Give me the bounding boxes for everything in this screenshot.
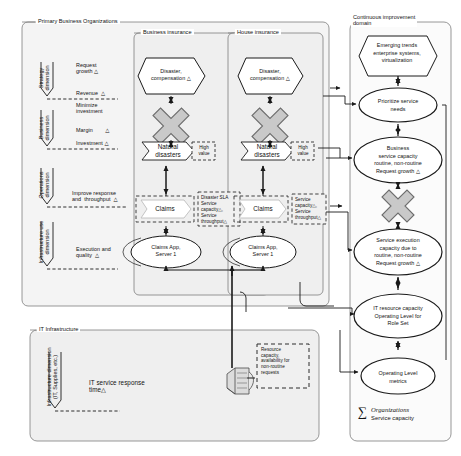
- bi-claims-label: Claims: [146, 205, 184, 212]
- ci-label-service-execution-capacity: Service execution capacity due to routin…: [358, 237, 438, 268]
- bi-banner-label: Natural disasters: [146, 143, 190, 158]
- hi-banner-label: Natural disasters: [245, 143, 289, 158]
- hi-claims-note: Service capacity△, Service throughput△: [295, 197, 321, 221]
- group-title-business-insurance: Business insurance: [141, 29, 194, 35]
- dimension-item-improve-response: Improve response and throughput △: [72, 190, 118, 202]
- summation-line2: Service capacity: [371, 415, 414, 421]
- axis-label-operations: Operations dimension: [38, 162, 51, 208]
- axis-label-business: Business dimension: [38, 106, 51, 150]
- dimension-item-investment: Investment △: [76, 140, 109, 146]
- axis-label-infrastructure-use: Infrastructure use dimension: [38, 212, 51, 272]
- bi-high-value-note: High value: [194, 145, 214, 156]
- hi-claims-label: Claims: [244, 205, 282, 212]
- ci-label-it-resource-capacity: IT resource capacity Operating Level for…: [357, 305, 439, 328]
- group-title-primary: Primary Business Organizations: [36, 18, 120, 24]
- summation-line1: Organizations: [371, 406, 409, 413]
- hi-hexagon-label: Disaster, compensation △: [241, 68, 299, 83]
- group-title-continuous-improvement: Continuous improvement domain: [351, 14, 417, 27]
- bi-hexagon-label: Disaster, compensation △: [141, 68, 201, 83]
- axis-label-strategy: Strategy dimension: [38, 56, 51, 100]
- dimension-item-request-growth: Request growth △: [76, 62, 98, 74]
- axis-label-it-dimension: Infrastructure dimension (IT, Supplies, …: [46, 342, 59, 412]
- it-service-response-label: IT service response time△: [89, 379, 145, 393]
- diagram-vector-layer: [0, 0, 461, 456]
- ci-label-business-service-capacity: Business service capacity routine, non-r…: [358, 145, 438, 176]
- ci-label-operating-level-metrics: Operating Level metrics: [369, 370, 427, 385]
- dimension-item-revenue: Revenue △: [76, 90, 105, 96]
- resource-capacity-note: Resource capacity, availability for non-…: [261, 347, 290, 376]
- dimension-item-margin: Margin △: [76, 127, 109, 133]
- hi-server-label: Claims App, Server 1: [236, 244, 290, 259]
- bi-claims-note: Disaster SLA Service capacity△, Service …: [201, 195, 228, 225]
- dimension-item-minimize-investment: Minimize investment: [76, 102, 103, 114]
- dimension-item-execution-quality: Execution and quality △: [76, 246, 111, 258]
- group-title-house-insurance: House insurance: [235, 29, 281, 35]
- hi-high-value-note: High value: [293, 145, 313, 156]
- bi-server-label: Claims App, Server 1: [138, 244, 194, 259]
- group-title-it-infrastructure: IT Infrastructure: [37, 326, 80, 332]
- summation-symbol: ∑: [358, 404, 367, 420]
- ci-label-emerging-trends: Emerging trends enterprise systems, virt…: [360, 42, 434, 65]
- diagram-canvas: Primary Business Organizations Business …: [0, 0, 461, 456]
- ci-label-prioritize-service-needs: Prioritize service needs: [366, 98, 430, 113]
